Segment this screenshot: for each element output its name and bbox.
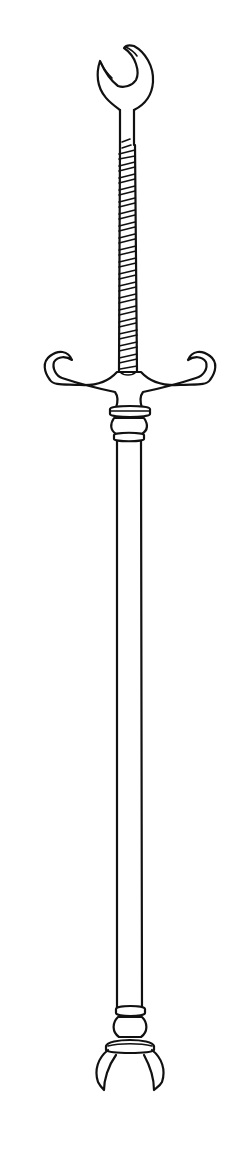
pole-weapon-illustration bbox=[0, 0, 237, 1157]
drawing-canvas: Line drawing of a pole weapon with forke… bbox=[0, 0, 237, 1157]
lower-collar bbox=[106, 1006, 154, 1053]
forked-head bbox=[98, 45, 153, 110]
spiral-grip bbox=[119, 110, 137, 372]
claw-butt bbox=[96, 1050, 163, 1090]
upper-collar bbox=[110, 406, 150, 441]
long-shaft bbox=[117, 441, 142, 1008]
